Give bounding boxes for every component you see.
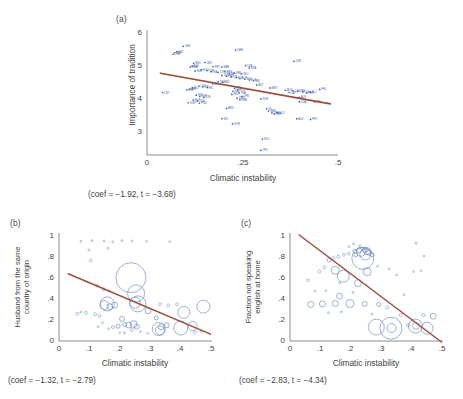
data-point [182, 45, 184, 47]
data-point [268, 110, 270, 112]
data-point-label: ALB [298, 117, 303, 121]
data-point [297, 91, 299, 93]
data-point-label: LBY [164, 91, 169, 95]
data-point [273, 113, 275, 115]
data-point-label: JPN [262, 148, 267, 152]
data-bubble [158, 303, 161, 306]
panel-b-xtick-3: .3 [143, 344, 157, 353]
panel-c-caption: (coef = −2.83, t = −4.34) [239, 376, 327, 385]
panel-b-xtick-1: .1 [82, 344, 96, 353]
data-point [262, 138, 264, 140]
data-bubble [357, 248, 362, 253]
panel-c: (c) Fraction not speaking english at hom… [231, 200, 463, 399]
data-point [192, 99, 194, 101]
data-bubble [123, 323, 127, 327]
data-point [271, 112, 273, 114]
panel-a-x-axis-title: Climatic instability [183, 173, 303, 183]
data-point-label: IRN [255, 79, 260, 83]
data-bubble [147, 332, 149, 334]
panel-b-caption: (coef = −1.32, t = −2.79) [8, 376, 96, 385]
data-point [260, 150, 262, 152]
data-point [232, 91, 234, 93]
data-point [234, 87, 236, 89]
data-bubble [363, 268, 371, 276]
data-point [199, 95, 201, 97]
data-bubble [325, 290, 327, 292]
data-point [189, 66, 191, 68]
data-point-label: SRB [236, 71, 242, 75]
data-point [202, 86, 204, 88]
data-bubble [139, 331, 141, 333]
data-point-label: PNG [201, 101, 207, 105]
data-point [249, 79, 251, 81]
data-bubble [403, 294, 405, 296]
data-point [231, 94, 233, 96]
data-point-label: BLZ [312, 90, 317, 94]
data-bubble [131, 240, 133, 242]
data-point-label: UKR [185, 44, 191, 48]
data-point [206, 70, 208, 72]
data-bubble [348, 246, 350, 248]
data-bubble [430, 313, 436, 319]
data-point [310, 91, 312, 93]
data-point-label: PHL [321, 87, 327, 91]
data-bubble [362, 301, 367, 306]
data-bubble [368, 319, 384, 335]
data-bubble [97, 326, 99, 328]
data-bubble [120, 316, 125, 321]
data-bubble [352, 291, 354, 293]
data-bubble [407, 324, 410, 327]
data-bubble [84, 311, 87, 314]
data-bubble [158, 324, 164, 330]
data-point-label: BGR [197, 69, 203, 73]
data-point [221, 118, 223, 120]
data-bubble [94, 313, 97, 316]
data-bubble [111, 326, 114, 329]
data-bubble [346, 299, 354, 307]
data-point-label: NLD [264, 137, 269, 141]
data-point-label: GBR [237, 48, 243, 52]
data-point-label: ARG [228, 106, 234, 110]
data-point-label: CHE [188, 88, 194, 92]
data-point [260, 98, 262, 100]
panel-a-plot: UKRESTJORGEOGBRUZBMKDLBNALBMDAPRTMARDZAR… [0, 0, 463, 200]
panel-b-plot [0, 200, 232, 399]
data-bubble [176, 303, 179, 306]
data-point [236, 77, 238, 79]
data-bubble [331, 266, 339, 274]
data-bubble [197, 300, 210, 313]
data-point [226, 75, 228, 77]
panel-c-xtick-5: .5 [435, 344, 449, 353]
data-point-label: KOR [234, 122, 240, 126]
panel-c-xtick-0: 0 [283, 344, 297, 353]
data-point [288, 92, 290, 94]
data-bubble [107, 247, 109, 249]
data-point-label: MAR [223, 65, 229, 69]
data-point-label: IRL [209, 86, 214, 90]
data-bubble [339, 282, 341, 284]
data-point [232, 123, 234, 125]
panel-b-xtick-5: .5 [204, 344, 218, 353]
data-bubble [146, 240, 148, 242]
panel-b-xtick-0: 0 [52, 344, 66, 353]
data-point-label: IND [233, 92, 238, 96]
data-point [186, 89, 188, 91]
data-bubble [108, 328, 110, 330]
data-point [284, 89, 286, 91]
data-point [207, 87, 209, 89]
data-bubble [178, 306, 190, 318]
data-point-label: ECU [279, 111, 285, 115]
data-point-label: CZE [206, 95, 211, 99]
data-point-label: GEO [176, 51, 182, 55]
panel-a-caption: (coef = −1.92, t = −3.68) [88, 190, 176, 199]
data-bubble [377, 265, 379, 267]
data-point-label: AUT [258, 83, 264, 87]
data-point [231, 76, 233, 78]
data-bubble [116, 263, 146, 293]
panel-a-xtick-5: .5 [331, 158, 345, 167]
data-point-label: NOR [262, 97, 268, 101]
data-point [238, 92, 240, 94]
data-point [212, 66, 214, 68]
panel-c-xtick-2: .2 [343, 344, 357, 353]
data-bubble [420, 270, 422, 272]
